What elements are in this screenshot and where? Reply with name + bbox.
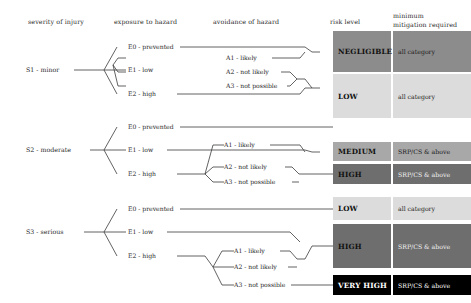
risk-low-1-label: LOW (333, 92, 358, 101)
avoidance-label-s2-a2: A2 - not likely (224, 163, 267, 170)
exposure-label-s2-e2: E2 - high (128, 170, 156, 177)
risk-high-1: HIGH (333, 164, 391, 184)
avoidance-label-s2-a1: A1 - likely (224, 141, 255, 148)
risk-low-2-mitigation-label: all category (393, 205, 435, 212)
severity-label-s2: S2 - moderate (26, 146, 71, 153)
branch-paths-s2 (90, 127, 333, 182)
risk-low-1-mitigation: all category (393, 74, 471, 118)
severity-label-s3: S3 - serious (26, 228, 64, 235)
branch-paths-s1 (74, 47, 320, 94)
risk-negligible-mitigation: all category (393, 31, 471, 72)
risk-low-2: LOW (333, 197, 391, 220)
avoidance-label-s3-a2: A2 - not likely (234, 263, 277, 270)
risk-low-1: LOW (333, 74, 391, 118)
avoidance-label-s3-a1: A1 - likely (234, 247, 265, 254)
exposure-label-s1-e2: E2 - high (128, 90, 156, 97)
risk-negligible: NEGLIGIBLE (333, 31, 391, 72)
risk-high-1-label: HIGH (333, 170, 362, 179)
exposure-label-s1-e0: E0 - prevented (128, 43, 174, 50)
exposure-label-s3-e2: E2 - high (128, 252, 156, 259)
exposure-label-s3-e1: E1 - low (128, 228, 153, 235)
risk-negligible-mitigation-label: all category (393, 48, 435, 55)
exposure-label-s3-e0: E0 - prevented (128, 205, 174, 212)
avoidance-label-s2-a3: A3 - not possible (224, 178, 275, 185)
risk-high-2-label: HIGH (333, 242, 362, 251)
risk-low-2-label: LOW (333, 204, 358, 213)
risk-high-2-mitigation: SRP/CS & above (393, 224, 471, 268)
branch-paths-s3 (84, 209, 333, 285)
risk-very-high-mitigation: SRP/CS & above (393, 275, 471, 295)
risk-high-1-mitigation: SRP/CS & above (393, 164, 471, 184)
avoidance-label-s1-a3: A3 - not possible (226, 82, 277, 89)
risk-very-high-mitigation-label: SRP/CS & above (393, 282, 450, 289)
risk-low-1-mitigation-label: all category (393, 93, 435, 100)
exposure-label-s2-e1: E1 - low (128, 146, 153, 153)
risk-graph-diagram: severity of injury exposure to hazard av… (0, 0, 471, 303)
risk-low-2-mitigation: all category (393, 197, 471, 220)
avoidance-label-s3-a3: A3 - not possible (234, 281, 285, 288)
avoidance-label-s1-a2: A2 - not likely (226, 68, 269, 75)
risk-medium: MEDIUM (333, 142, 391, 161)
risk-medium-label: MEDIUM (333, 147, 376, 156)
risk-negligible-label: NEGLIGIBLE (333, 47, 392, 56)
risk-high-1-mitigation-label: SRP/CS & above (393, 171, 450, 178)
risk-high-2-mitigation-label: SRP/CS & above (393, 243, 450, 250)
avoidance-label-s1-a1: A1 - likely (226, 54, 257, 61)
risk-high-2: HIGH (333, 224, 391, 268)
severity-label-s1: S1 - minor (26, 66, 59, 73)
risk-very-high: VERY HIGH (333, 275, 391, 295)
risk-medium-mitigation-label: SRP/CS & above (393, 148, 450, 155)
risk-very-high-label: VERY HIGH (333, 281, 387, 290)
exposure-label-s1-e1: E1 - low (128, 66, 153, 73)
risk-medium-mitigation: SRP/CS & above (393, 142, 471, 161)
exposure-label-s2-e0: E0 - prevented (128, 123, 174, 130)
